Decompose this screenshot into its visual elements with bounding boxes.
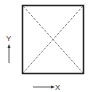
y-axis-label: Y xyxy=(6,34,12,43)
x-axis-arrow-icon xyxy=(33,86,55,89)
x-axis-label: X xyxy=(55,83,61,92)
y-axis-arrow-icon xyxy=(8,44,11,63)
square-diagram: Y X xyxy=(0,0,92,92)
